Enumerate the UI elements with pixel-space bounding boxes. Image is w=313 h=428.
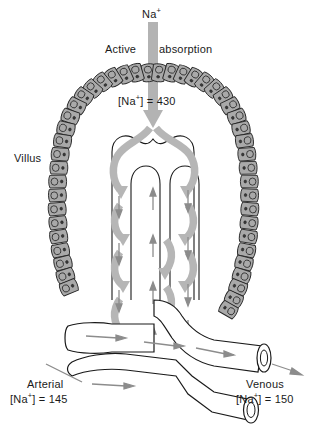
capillary-loop-outlines bbox=[112, 136, 199, 300]
arterial-prefix: [Na bbox=[10, 393, 28, 405]
villus-label: Villus bbox=[14, 152, 41, 164]
tip-suffix: ] = bbox=[140, 95, 156, 107]
na-top-charge: + bbox=[156, 6, 161, 15]
venous-prefix: [Na bbox=[236, 393, 254, 405]
arterial-label: Arterial bbox=[27, 378, 63, 390]
absorption-label: absorption bbox=[159, 43, 212, 55]
venous-suffix: ] = bbox=[258, 393, 274, 405]
arterial-value: 145 bbox=[49, 393, 68, 405]
villus-diagram: Na+ Active absorption [Na+] = 430 Villus… bbox=[0, 0, 313, 428]
venous-label: Venous bbox=[246, 378, 284, 390]
na-top-text: Na bbox=[142, 8, 156, 20]
tip-value: 430 bbox=[157, 95, 176, 107]
tip-prefix: [Na bbox=[118, 95, 136, 107]
arterial-concentration-label: [Na+] = 145 bbox=[10, 393, 68, 405]
tip-concentration-label: [Na+] = 430 bbox=[118, 95, 176, 107]
active-label: Active bbox=[105, 43, 136, 55]
venous-concentration-label: [Na+] = 150 bbox=[236, 393, 294, 405]
arterial-suffix: ] = bbox=[32, 393, 48, 405]
venous-value: 150 bbox=[275, 393, 294, 405]
villus-diagram-svg bbox=[0, 0, 313, 428]
na-top-label: Na+ bbox=[142, 8, 161, 20]
